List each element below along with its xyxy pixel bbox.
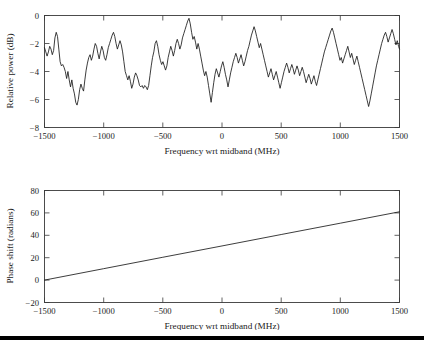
top-x-tick-label: 500 <box>275 131 288 141</box>
top-y-tick-label: −4 <box>30 67 40 77</box>
bottom-x-tick-label: 1000 <box>332 306 349 316</box>
top-x-tick-label: −500 <box>154 131 172 141</box>
bottom-x-tick-label: 1500 <box>391 306 408 316</box>
top-y-tick-label: −2 <box>30 39 39 49</box>
top-x-tick-label: −1000 <box>93 131 115 141</box>
top-y-axis-label: Relative power (dB) <box>5 33 15 108</box>
bottom-x-axis-label: Frequency wrt midband (MHz) <box>164 321 279 330</box>
top-plot-frame <box>45 16 400 128</box>
panel-phase-shift: Phase shift (radians) 80 60 40 20 0 −20 <box>0 175 424 325</box>
relative-power-plot: Relative power (dB) 0 −2 −4 −6 −8 <box>0 0 424 175</box>
top-x-tick-label: 1000 <box>332 131 349 141</box>
relative-power-trace <box>45 18 400 106</box>
bottom-x-tick-label: −1000 <box>93 306 115 316</box>
top-x-ticks <box>45 16 400 128</box>
bottom-y-tick-label: 20 <box>30 253 39 263</box>
top-x-tick-label: 1500 <box>391 131 408 141</box>
top-y-tick-label: −6 <box>30 95 40 105</box>
phase-shift-plot: Phase shift (radians) 80 60 40 20 0 −20 <box>0 175 424 330</box>
top-x-tick-label: −1500 <box>33 131 55 141</box>
bottom-x-tick-label: 500 <box>275 306 288 316</box>
top-x-axis-label: Frequency wrt midband (MHz) <box>164 146 279 156</box>
bottom-x-tick-label: −1500 <box>33 306 55 316</box>
top-y-ticks <box>45 16 400 128</box>
bottom-y-tick-label: 80 <box>30 186 39 196</box>
bottom-y-tick-label: 60 <box>30 208 39 218</box>
bottom-y-tick-label: 0 <box>35 275 39 285</box>
page-bottom-rule <box>0 336 424 340</box>
bottom-x-tick-label: −500 <box>154 306 172 316</box>
bottom-x-tick-label: 0 <box>220 306 224 316</box>
figure-two-panel-spectrum: Relative power (dB) 0 −2 −4 −6 −8 <box>0 0 424 350</box>
bottom-x-ticks <box>45 191 400 303</box>
bottom-y-ticks <box>45 191 400 303</box>
phase-shift-trace <box>45 212 400 280</box>
bottom-y-tick-label: 40 <box>30 230 39 240</box>
panel-relative-power: Relative power (dB) 0 −2 −4 −6 −8 <box>0 0 424 175</box>
bottom-y-axis-label: Phase shift (radians) <box>5 208 15 283</box>
top-y-tick-label: 0 <box>35 11 39 21</box>
top-x-tick-label: 0 <box>220 131 224 141</box>
bottom-plot-frame <box>45 191 400 303</box>
